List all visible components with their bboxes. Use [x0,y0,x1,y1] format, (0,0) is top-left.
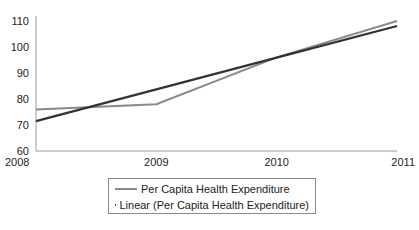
series-line-expenditure [36,21,397,109]
y-axis-ticks: 60708090100110 [11,15,29,157]
series-lines [36,21,397,121]
y-tick-label: 110 [11,15,29,27]
legend-label: Per Capita Health Expenditure [141,181,290,197]
legend-item-linear: Linear (Per Capita Health Expenditure) [115,197,309,213]
legend-label: Linear (Per Capita Health Expenditure) [119,197,309,213]
y-tick-label: 90 [17,67,29,79]
x-tick-label: 2008 [5,156,29,168]
line-chart: 60708090100110 2008200920102011 [0,0,419,175]
legend-swatch-gray-icon [115,188,137,190]
y-tick-label: 100 [11,41,29,53]
legend-item-expenditure: Per Capita Health Expenditure [115,181,309,197]
y-tick-label: 70 [17,119,29,131]
series-line-linear-trend [36,26,397,121]
x-tick-label: 2010 [264,156,288,168]
legend: Per Capita Health Expenditure Linear (Pe… [108,178,316,214]
x-axis-ticks: 2008200920102011 [5,156,415,168]
y-tick-label: 80 [17,93,29,105]
x-tick-label: 2009 [144,156,168,168]
x-tick-label: 2011 [391,156,415,168]
